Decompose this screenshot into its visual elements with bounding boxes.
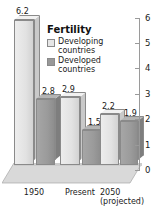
x-label-2050: 2050 (projected) <box>100 188 158 206</box>
legend-item-developing: Developing countries <box>47 38 119 55</box>
x-label-present-line1: Present <box>65 188 95 197</box>
bar-1950-developing <box>14 20 34 165</box>
y-tick-1 <box>135 145 140 146</box>
y-tick-4 <box>135 68 140 69</box>
legend-item-developed: Developed countries <box>47 57 119 74</box>
bar-present-developing <box>60 97 80 165</box>
bar-front-face <box>82 130 101 165</box>
x-label-1950-line1: 1950 <box>24 188 44 197</box>
bar-front-face <box>120 121 138 165</box>
value-label-1950-developing: 6.2 <box>16 8 29 16</box>
y-tick-label-2: 2 <box>145 115 150 123</box>
value-label-2050-developed: 1.9 <box>124 110 137 118</box>
y-tick-2 <box>135 119 140 120</box>
legend-label-developing-line2: countries <box>58 46 95 55</box>
fertility-bar-chart: 6.2 2.8 2.9 1.5 2.2 <box>0 0 163 212</box>
y-tick-label-4: 4 <box>145 64 150 72</box>
value-label-present-developed: 1.5 <box>88 119 101 127</box>
x-label-present: Present <box>54 188 106 197</box>
legend-label-developed-line2: countries <box>58 65 95 74</box>
legend-label-developing: Developing countries <box>58 38 103 55</box>
y-tick-0 <box>135 170 140 171</box>
bar-front-face <box>60 97 80 165</box>
bar-front-face <box>14 20 34 165</box>
value-label-2050-developing: 2.2 <box>102 103 115 111</box>
value-label-present-developing: 2.9 <box>62 86 75 94</box>
y-tick-label-6: 6 <box>145 14 150 22</box>
value-label-1950-developed: 2.8 <box>42 88 55 96</box>
bar-2050-developing <box>100 114 119 165</box>
y-tick-label-0: 0 <box>145 166 150 174</box>
y-tick-label-1: 1 <box>145 141 150 149</box>
bar-1950-developed <box>36 99 55 165</box>
bar-front-face <box>36 99 55 165</box>
bar-front-face <box>100 114 119 165</box>
x-label-1950: 1950 <box>8 188 60 197</box>
y-tick-5 <box>135 43 140 44</box>
legend-label-developed: Developed countries <box>58 57 101 74</box>
x-label-2050-line1: 2050 <box>100 188 120 197</box>
y-tick-label-3: 3 <box>145 90 150 98</box>
y-tick-label-5: 5 <box>145 39 150 47</box>
bar-2050-developed <box>120 121 138 165</box>
bar-present-developed <box>82 130 101 165</box>
x-label-2050-line2: (projected) <box>100 197 158 206</box>
legend-swatch-developing-icon <box>47 39 55 47</box>
legend-swatch-developed-icon <box>47 58 55 66</box>
legend-title: Fertility <box>47 24 119 35</box>
y-tick-3 <box>135 94 140 95</box>
y-tick-6 <box>135 18 140 19</box>
chart-legend: Fertility Developing countries Developed… <box>47 24 119 76</box>
